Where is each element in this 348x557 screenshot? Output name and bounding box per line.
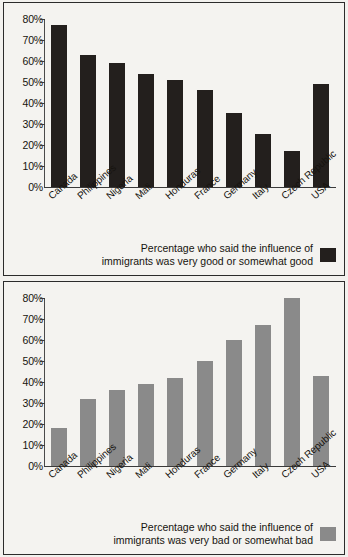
bar-italy[interactable] [255, 325, 271, 466]
legend-label: Percentage who said the influence of imm… [102, 242, 313, 267]
legend-swatch [320, 527, 336, 541]
legend-label: Percentage who said the influence of imm… [113, 521, 313, 546]
bar-philippines[interactable] [80, 55, 96, 187]
bars-layer [44, 298, 336, 466]
legend-swatch [320, 248, 336, 262]
chart-panel-good: 80%70%60%50%40%30%20%10%0%CanadaPhilippi… [3, 2, 345, 276]
chart-legend: Percentage who said the influence of imm… [113, 521, 336, 546]
bar-honduras[interactable] [167, 378, 183, 466]
chart-page: 80%70%60%50%40%30%20%10%0%CanadaPhilippi… [0, 0, 348, 557]
plot-area-good: 80%70%60%50%40%30%20%10%0%CanadaPhilippi… [4, 3, 344, 275]
bar-mali[interactable] [138, 74, 154, 187]
bar-mali[interactable] [138, 384, 154, 466]
chart-panel-bad: 80%70%60%50%40%30%20%10%0%CanadaPhilippi… [3, 281, 345, 555]
y-tick-label: 0% [28, 181, 43, 193]
bars-layer [44, 19, 336, 187]
y-tick-label: 0% [28, 460, 43, 472]
y-axis-labels: 80%70%60%50%40%30%20%10%0% [10, 282, 43, 554]
bar-honduras[interactable] [167, 80, 183, 187]
plot-area-bad: 80%70%60%50%40%30%20%10%0%CanadaPhilippi… [4, 282, 344, 554]
y-axis-labels: 80%70%60%50%40%30%20%10%0% [10, 3, 43, 275]
bar-italy[interactable] [255, 134, 271, 187]
chart-legend: Percentage who said the influence of imm… [102, 242, 336, 267]
bar-canada[interactable] [51, 25, 67, 187]
bar-czech-republic[interactable] [284, 298, 300, 466]
bar-germany[interactable] [226, 340, 242, 466]
